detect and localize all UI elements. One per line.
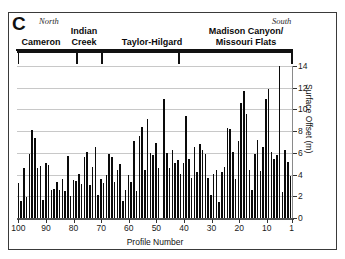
segment-boundary-tick: [76, 51, 78, 64]
bar: [133, 141, 135, 218]
bar: [279, 66, 281, 218]
y-axis-tick-label: 0: [298, 213, 314, 223]
bar: [188, 159, 190, 218]
bar: [268, 89, 270, 218]
bar: [158, 168, 160, 218]
bar: [62, 179, 64, 218]
y-axis-tick-label: 4: [298, 170, 314, 180]
bar: [185, 116, 187, 218]
bar: [128, 175, 130, 218]
bar: [276, 155, 278, 218]
figure-panel-c: C North South Cameron IndianCreek Taylor…: [0, 0, 345, 259]
bar: [207, 178, 209, 218]
bar: [260, 171, 262, 218]
bar: [59, 190, 61, 218]
plot-area: [17, 66, 293, 218]
bar: [183, 163, 185, 218]
bar: [78, 174, 80, 219]
bar: [42, 200, 44, 218]
bar: [271, 152, 273, 218]
x-axis-tick-label: 40: [171, 223, 197, 233]
x-axis-title: Profile Number: [17, 237, 293, 247]
bar: [218, 202, 220, 218]
bar: [180, 174, 182, 219]
bar: [23, 168, 25, 218]
bar-series: [17, 66, 292, 218]
segment-label-cameron: Cameron: [16, 37, 66, 48]
bar: [155, 143, 157, 218]
bar: [243, 91, 245, 218]
y-axis-tick: [293, 175, 297, 176]
segment-label-taylor-hilgard: Taylor-Hilgard: [104, 37, 200, 48]
bar: [174, 163, 176, 218]
bar: [45, 163, 47, 218]
bar: [232, 152, 234, 218]
bar: [249, 170, 251, 218]
bar: [196, 172, 198, 218]
x-axis-tick-label: 50: [143, 223, 169, 233]
bar: [125, 190, 127, 218]
bar: [70, 196, 72, 218]
bar: [48, 165, 50, 218]
orientation-label-north: North: [39, 16, 59, 26]
segment-boundary-tick: [101, 51, 103, 64]
bar: [254, 154, 256, 218]
bar: [191, 178, 193, 218]
bar: [114, 182, 116, 218]
bar: [75, 181, 77, 218]
segment-boundary-tick: [18, 51, 20, 64]
bar: [216, 170, 218, 218]
bar: [199, 144, 201, 218]
bar: [97, 195, 99, 218]
segment-boundary-tick: [291, 51, 293, 64]
bar: [221, 172, 223, 218]
bar: [84, 157, 86, 218]
bar: [194, 147, 196, 218]
bar: [229, 129, 231, 218]
bar: [95, 147, 97, 218]
y-axis-tick: [293, 218, 297, 219]
x-axis-tick-labels: 1009080706050403020101: [0, 223, 345, 237]
y-axis-tick: [293, 196, 297, 197]
bar: [103, 183, 105, 218]
y-axis-tick-label: 14: [298, 61, 314, 71]
x-axis-tick-label: 70: [88, 223, 114, 233]
bar: [117, 170, 119, 218]
bar: [262, 147, 264, 218]
bar: [177, 160, 179, 218]
bar: [89, 185, 91, 218]
bar: [224, 167, 226, 218]
bar: [119, 164, 121, 218]
bar: [213, 174, 215, 219]
y-axis-tick: [293, 153, 297, 154]
bar: [81, 184, 83, 218]
bar: [53, 189, 55, 218]
bar: [284, 150, 286, 218]
bar: [235, 179, 237, 218]
bar: [166, 153, 168, 218]
bar: [257, 140, 259, 218]
bar: [122, 201, 124, 218]
bar: [147, 119, 149, 218]
x-axis-tick-label: 90: [33, 223, 59, 233]
x-axis-tick-label: 60: [116, 223, 142, 233]
bar: [92, 167, 94, 218]
x-axis-tick-label: 80: [61, 223, 87, 233]
bar: [246, 114, 248, 218]
bar: [100, 179, 102, 218]
bar: [29, 154, 31, 218]
bar: [273, 159, 275, 218]
bar: [20, 201, 22, 218]
bar: [106, 175, 108, 218]
bar: [31, 130, 33, 218]
bar: [111, 157, 113, 218]
bar: [163, 99, 165, 218]
bar: [136, 191, 138, 218]
bar: [40, 166, 42, 218]
y-axis-tick: [293, 88, 297, 89]
segment-label-madison-canyon-missouri-flats: Madison Canyon/Missouri Flats: [197, 26, 295, 47]
y-axis-tick: [293, 66, 297, 67]
bar: [238, 141, 240, 218]
bar: [287, 162, 289, 218]
bar: [18, 183, 20, 218]
